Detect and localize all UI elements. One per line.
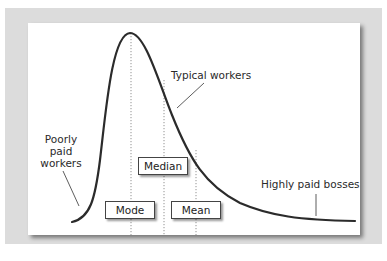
median-box: Median (138, 157, 188, 175)
mode-box: Mode (105, 201, 155, 219)
poorly-paid-label: Poorly paid workers (36, 133, 86, 169)
typical-workers-label: Typical workers (171, 69, 251, 81)
typical-leader (177, 83, 204, 108)
highly-paid-label: Highly paid bosses (261, 178, 360, 190)
poorly-paid-leader (63, 171, 79, 206)
distribution-curve (72, 33, 355, 222)
mean-box: Mean (171, 201, 221, 219)
distribution-plot (0, 0, 387, 261)
